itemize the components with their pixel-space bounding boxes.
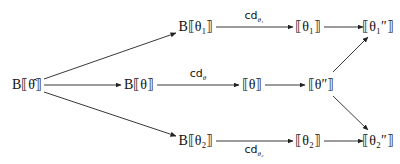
node-b-theta-2: B⟦θ₂⟧ [179,133,214,149]
node-theta: ⟦θ⟧ [242,77,263,93]
arrow-bthetahat-to-btheta2 [44,92,176,136]
node-theta-2: ⟦θ₂⟧ [295,133,321,149]
node-b-theta-1: B⟦θ₁⟧ [179,19,214,35]
edge-label-cd-theta-1: cdθ₁ [245,10,264,26]
edge-label-cd-theta-2: cdθ₂ [245,144,264,160]
node-b-theta-hat: B⟦θ̂⟧ [12,77,42,93]
arrow-thetapp-to-theta1pp [333,37,368,72]
commutative-diagram: B⟦θ̂⟧ B⟦θ₁⟧ B⟦θ⟧ B⟦θ₂⟧ ⟦θ₁⟧ ⟦θ⟧ ⟦θ″⟧ ⟦θ₂… [0,0,400,164]
node-theta-double-prime: ⟦θ″⟧ [308,77,335,93]
node-b-theta: B⟦θ⟧ [124,77,154,93]
edge-label-cd-theta: cdθ [190,68,206,84]
arrow-bthetahat-to-btheta1 [44,33,176,79]
arrow-thetapp-to-theta2pp [333,96,368,130]
node-theta-1: ⟦θ₁⟧ [295,19,321,35]
node-theta-1-double-prime: ⟦θ₁″⟧ [362,19,393,35]
node-theta-2-double-prime: ⟦θ₂″⟧ [362,133,393,149]
